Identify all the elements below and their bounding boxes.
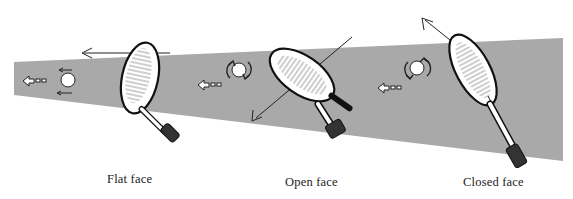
diagram-canvas [0,0,573,199]
ball-icon [61,73,75,87]
open-face-label: Open face [285,175,338,190]
closed-face-label: Closed face [463,175,524,190]
ball-icon [410,61,424,75]
swing-direction-arrow [422,18,450,40]
flat-face-label: Flat face [107,172,152,187]
racket-face-diagram: Flat face Open face Closed face [0,0,573,199]
